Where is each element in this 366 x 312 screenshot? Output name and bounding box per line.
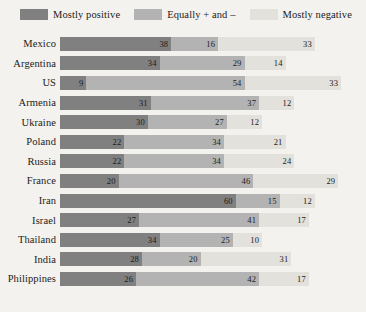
row-label-philippines: Philippines (0, 273, 60, 284)
bar-segment-value: 14 (274, 59, 283, 68)
bar-segment-mostly-negative: 21 (224, 135, 286, 149)
bar-segment-mostly-negative: 33 (218, 37, 315, 51)
legend-item-mostly-negative: Mostly negative (250, 9, 352, 20)
bar-track: 274117 (60, 213, 366, 227)
bar-segment-value: 12 (250, 118, 259, 127)
row-label-france: France (0, 175, 60, 186)
bar-segment-mostly-positive: 34 (60, 56, 160, 70)
chart-row: Russia223424 (0, 152, 366, 172)
bar-segment-mostly-positive: 38 (60, 37, 171, 51)
row-label-us: US (0, 77, 60, 88)
bar-segment-equally-and: 20 (142, 252, 201, 266)
bar-segment-value: 20 (189, 255, 198, 264)
bar-segment-mostly-negative: 17 (259, 272, 309, 286)
bar-segment-mostly-negative: 24 (224, 154, 294, 168)
legend-label-mostly-negative: Mostly negative (283, 9, 352, 20)
bar-segment-value: 30 (136, 118, 145, 127)
bar-segment-value: 24 (282, 157, 291, 166)
bar-segment-equally-and: 46 (119, 174, 254, 188)
bar-track: 342510 (60, 233, 366, 247)
bar-track: 223424 (60, 154, 366, 168)
bar-segment-mostly-positive: 60 (60, 194, 236, 208)
bar-segment-value: 17 (297, 216, 306, 225)
chart-row: Thailand342510 (0, 230, 366, 250)
bar-segment-value: 25 (221, 235, 230, 244)
bar-track: 204629 (60, 174, 366, 188)
bar-segment-mostly-negative: 29 (253, 174, 338, 188)
bar-segment-mostly-positive: 31 (60, 96, 151, 110)
bar-segment-value: 33 (329, 79, 338, 88)
bar-segment-equally-and: 54 (86, 76, 244, 90)
chart-row: India282031 (0, 250, 366, 270)
bar-segment-equally-and: 37 (151, 96, 259, 110)
legend-swatch-mixed-icon (134, 9, 162, 20)
chart-row: Philippines264217 (0, 269, 366, 289)
bar-segment-mostly-negative: 12 (259, 96, 294, 110)
bar-segment-value: 34 (212, 138, 221, 147)
bar-segment-mostly-positive: 26 (60, 272, 136, 286)
chart-row: Mexico381633 (0, 34, 366, 54)
legend-swatch-negative-icon (250, 9, 278, 20)
bar-segment-mostly-negative: 31 (201, 252, 292, 266)
bar-segment-value: 34 (212, 157, 221, 166)
bar-segment-value: 22 (113, 157, 122, 166)
row-label-thailand: Thailand (0, 234, 60, 245)
row-label-poland: Poland (0, 136, 60, 147)
row-label-armenia: Armenia (0, 97, 60, 108)
chart-row: France204629 (0, 171, 366, 191)
bar-segment-mostly-negative: 12 (227, 115, 262, 129)
chart-legend: Mostly positive Equally + and – Mostly n… (0, 0, 366, 20)
bar-segment-equally-and: 34 (124, 135, 224, 149)
bar-track: 302712 (60, 115, 366, 129)
bar-segment-value: 31 (139, 98, 148, 107)
bar-segment-value: 34 (148, 59, 157, 68)
bar-segment-mostly-positive: 27 (60, 213, 139, 227)
legend-label-equally-positive-and-negative: Equally + and – (167, 9, 235, 20)
bar-segment-value: 10 (250, 235, 259, 244)
bar-segment-equally-and: 34 (124, 154, 224, 168)
bar-segment-value: 20 (107, 177, 116, 186)
bar-segment-mostly-negative: 14 (245, 56, 286, 70)
bar-segment-value: 60 (224, 196, 233, 205)
bar-segment-mostly-negative: 10 (233, 233, 262, 247)
bar-segment-mostly-positive: 22 (60, 135, 124, 149)
bar-segment-mostly-positive: 28 (60, 252, 142, 266)
bar-segment-equally-and: 25 (160, 233, 233, 247)
bar-segment-mostly-negative: 33 (245, 76, 342, 90)
chart-row: Armenia313712 (0, 93, 366, 113)
legend-swatch-positive-icon (20, 9, 48, 20)
legend-item-equally-positive-and-negative: Equally + and – (134, 9, 235, 20)
stacked-bar-chart: Mexico381633Argentina342914US95433Armeni… (0, 34, 366, 289)
bar-segment-equally-and: 16 (171, 37, 218, 51)
row-label-india: India (0, 254, 60, 265)
bar-segment-mostly-positive: 20 (60, 174, 119, 188)
bar-segment-value: 12 (303, 196, 312, 205)
bar-segment-value: 29 (326, 177, 335, 186)
bar-segment-mostly-positive: 22 (60, 154, 124, 168)
bar-segment-value: 46 (241, 177, 250, 186)
bar-segment-value: 26 (124, 275, 133, 284)
chart-row: US95433 (0, 73, 366, 93)
bar-segment-mostly-positive: 9 (60, 76, 86, 90)
bar-segment-value: 17 (297, 275, 306, 284)
legend-item-mostly-positive: Mostly positive (20, 9, 120, 20)
chart-row: Argentina342914 (0, 54, 366, 74)
bar-segment-value: 31 (280, 255, 289, 264)
bar-segment-value: 21 (274, 138, 283, 147)
chart-row: Iran601512 (0, 191, 366, 211)
row-label-mexico: Mexico (0, 38, 60, 49)
bar-track: 342914 (60, 56, 366, 70)
bar-segment-value: 29 (233, 59, 242, 68)
row-label-ukraine: Ukraine (0, 117, 60, 128)
bar-segment-value: 9 (79, 79, 83, 88)
row-label-israel: Israel (0, 215, 60, 226)
bar-track: 223421 (60, 135, 366, 149)
bar-track: 313712 (60, 96, 366, 110)
bar-segment-mostly-negative: 12 (280, 194, 315, 208)
chart-row: Israel274117 (0, 210, 366, 230)
bar-segment-value: 41 (247, 216, 256, 225)
bar-track: 282031 (60, 252, 366, 266)
bar-segment-value: 22 (113, 138, 122, 147)
bar-track: 601512 (60, 194, 366, 208)
bar-segment-value: 15 (268, 196, 277, 205)
